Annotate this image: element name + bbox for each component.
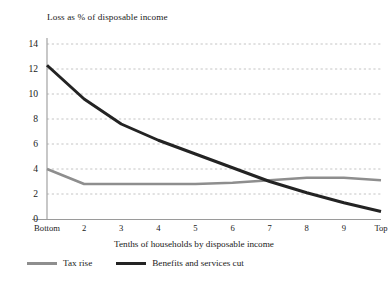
y-tick-label: 0 [14,213,38,224]
x-tick-label: 9 [342,223,346,233]
legend-item-tax-rise: Tax rise [27,258,92,268]
x-tick-label: 7 [268,223,272,233]
x-tick-label: 5 [193,223,197,233]
x-tick-label: 8 [305,223,309,233]
y-tick-label: 8 [14,113,38,124]
legend-item-benefits-and-services-cut: Benefits and services cut [116,258,244,268]
legend-swatch-benefits-and-services-cut [116,262,146,265]
y-tick-label: 12 [14,63,38,74]
y-tick-label: 10 [14,88,38,99]
series-line-tax-rise [47,169,381,184]
x-tick-label: Bottom [34,223,60,233]
chart-container: Loss as % of disposable income 024681012… [0,0,388,284]
x-tick-label: 4 [156,223,160,233]
x-tick-label: 6 [230,223,234,233]
chart-legend: Tax rise Benefits and services cut [27,258,244,268]
y-tick-label: 2 [14,188,38,199]
y-tick-label: 4 [14,163,38,174]
x-tick-label: Top [374,223,387,233]
legend-label-benefits-and-services-cut: Benefits and services cut [152,258,244,268]
x-axis-title: Tenths of households by disposable incom… [0,239,388,249]
legend-label-tax-rise: Tax rise [63,258,92,268]
y-tick-label: 6 [14,138,38,149]
x-tick-label: 2 [82,223,86,233]
gridlines-group [47,44,381,194]
series-line-benefits-and-services-cut [47,65,381,211]
y-tick-label: 14 [14,38,38,49]
x-tick-label: 3 [119,223,123,233]
legend-swatch-tax-rise [27,262,57,265]
